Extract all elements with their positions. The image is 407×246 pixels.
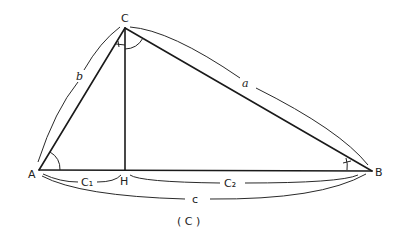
brace-c2-right bbox=[245, 175, 358, 183]
vertex-b-label: B bbox=[375, 166, 383, 179]
angle-ach-tick bbox=[118, 41, 119, 47]
angle-b-arc bbox=[346, 158, 347, 170]
side-b-label: b bbox=[76, 70, 83, 83]
brace-b-upper bbox=[84, 27, 120, 70]
side-c-line bbox=[39, 170, 372, 171]
side-c2-label: C₂ bbox=[224, 177, 236, 190]
side-c-label: c bbox=[192, 193, 198, 206]
side-b-line bbox=[39, 28, 125, 170]
brace-b-lower bbox=[38, 82, 78, 162]
brace-a-lower bbox=[256, 88, 368, 165]
triangle-diagram: C A B H a b C₁ C₂ c ( C ) bbox=[0, 0, 407, 246]
figure-caption: ( C ) bbox=[177, 215, 200, 228]
brace-c1-left bbox=[43, 174, 78, 182]
brace-c2-left bbox=[130, 175, 220, 183]
angle-a-arc bbox=[50, 152, 60, 170]
brace-a-upper bbox=[130, 27, 240, 78]
side-a-label: a bbox=[242, 77, 249, 90]
side-a-line bbox=[125, 28, 372, 171]
angle-acb-arc bbox=[125, 38, 143, 49]
foot-h-label: H bbox=[120, 175, 128, 188]
side-c1-label: C₁ bbox=[81, 176, 93, 189]
vertex-a-label: A bbox=[28, 168, 36, 181]
brace-c1-right bbox=[97, 175, 121, 182]
angle-ach-arc bbox=[116, 44, 125, 45]
vertex-c-label: C bbox=[121, 12, 129, 25]
